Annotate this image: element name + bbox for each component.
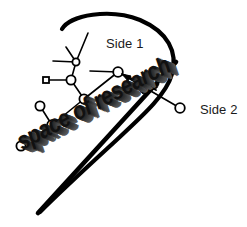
side-2-label: Side 2 [200, 102, 237, 117]
side-1-label: Side 1 [106, 36, 143, 51]
diagram-canvas: Side 1 Side 2 space of research [0, 0, 247, 227]
graph-node-n2 [66, 75, 75, 84]
graph-node-n3 [43, 77, 49, 83]
graph-node-n9 [175, 103, 185, 113]
graph-node-n1 [72, 58, 79, 65]
branch-up-right-stroke [76, 33, 88, 62]
